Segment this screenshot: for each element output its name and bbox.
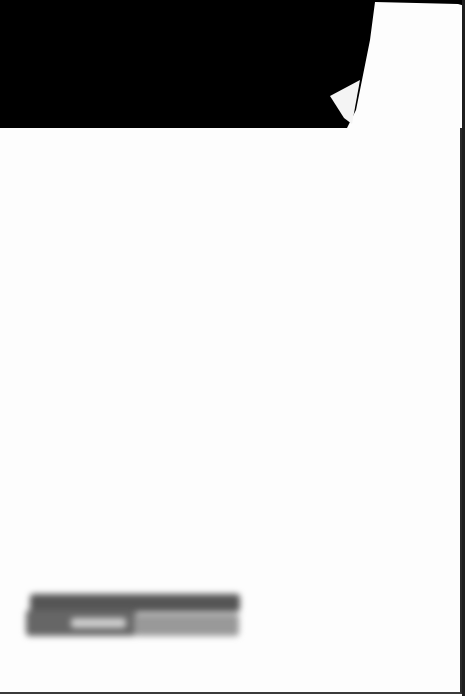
folded-page-corner [0, 0, 465, 130]
blurred-text-block [26, 588, 248, 654]
